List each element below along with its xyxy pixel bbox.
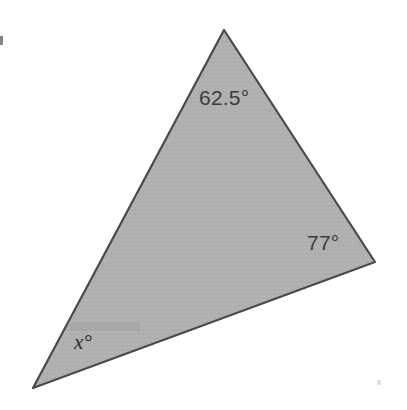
figure-canvas: 62.5° 77° x° [0,0,407,410]
scan-artifact-bottom-right [377,380,381,385]
unknown-angle-label: x° [74,332,92,353]
scan-artifact-left-edge [0,36,3,45]
apex-angle-label: 62.5° [199,87,249,108]
right-angle-label: 77° [307,232,339,253]
triangle-figure [0,0,407,410]
